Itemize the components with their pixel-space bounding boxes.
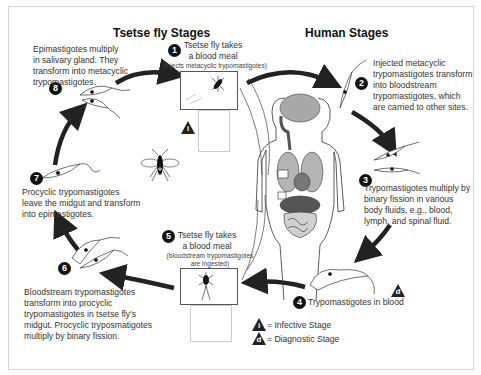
stage-2-description: Injected metacyclic trypomastigotes tran…: [373, 58, 473, 113]
stage-6-description: Bloodstream trypomastigotes transform in…: [24, 287, 154, 342]
stage-5-note: (bloodstream trypomastigotes are ingeste…: [160, 252, 260, 268]
stage-2-badge: 2: [355, 77, 368, 90]
stage-5-badge: 5: [162, 230, 175, 243]
stage-8-description: Epimastigotes multiply in salivary gland…: [33, 44, 133, 88]
legend-diagnostic-label: = Diagnostic Stage: [267, 334, 339, 344]
stage-5-label: Tsetse fly takes a blood meal: [176, 230, 238, 252]
legend-infective-icon: i: [252, 318, 266, 331]
stage-6-badge: 6: [58, 262, 71, 275]
stage-1-label: Tsetse fly takes a blood meal: [183, 40, 243, 62]
stage-1-badge: 1: [168, 44, 181, 57]
legend-diagnostic-icon: d: [252, 332, 266, 345]
stage-4-description: Trypomastigotes in blood: [308, 297, 418, 308]
stage-4-badge: 4: [293, 296, 306, 309]
stage-7-badge: 7: [30, 172, 43, 185]
stage-3-description: Trypomastigotes multiply by binary fissi…: [364, 183, 474, 227]
diagnostic-stage-marker: d: [391, 284, 405, 297]
stage-7-description: Procyclic trypomastigotes leave the midg…: [22, 187, 147, 220]
stage-1-note: (injects metacyclic trypomastigotes): [150, 62, 280, 70]
legend-infective-label: = Infective Stage: [267, 320, 331, 330]
stage-5-parasite-inset: [190, 305, 232, 342]
